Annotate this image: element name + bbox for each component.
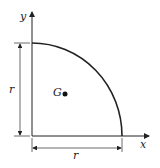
- quarter-circle-arc: [32, 43, 122, 136]
- y-axis-label: y: [20, 11, 26, 22]
- diagram-graphic: [0, 0, 160, 168]
- horizontal-dimension-label: r: [73, 150, 78, 161]
- centroid-label: G: [53, 87, 62, 98]
- vertical-dimension-label: r: [9, 84, 14, 95]
- centroid-dot: [63, 92, 68, 97]
- quarter-circle-diagram: y x G r r: [0, 0, 160, 168]
- x-axis-label: x: [140, 139, 146, 150]
